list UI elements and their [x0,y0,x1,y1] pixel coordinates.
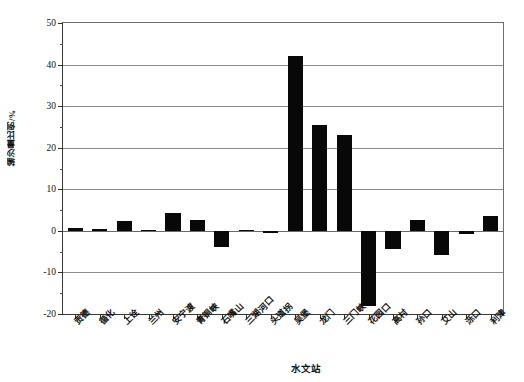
bar [214,231,229,247]
y-axis-minor-tick [60,169,63,170]
chart-figure: 输沙量比例/% 50403020100-10-20 水文站 贡德循化上诠兰州安宁… [0,0,524,382]
y-axis-tick [58,314,63,315]
y-axis-minor-tick [60,210,63,211]
y-axis-minor-tick [60,44,63,45]
y-axis-tick [58,65,63,66]
bar [239,230,254,231]
bar [68,228,83,230]
bar [434,231,449,255]
bar [263,231,278,233]
y-axis-minor-tick [60,127,63,128]
plot-area: 50403020100-10-20 [62,22,504,315]
y-axis-tick-label: 20 [26,143,56,153]
bar [312,125,327,231]
gridline [63,106,503,107]
y-axis-tick-label: 40 [26,60,56,70]
bar [190,220,205,230]
y-axis-tick-label: 0 [26,226,56,236]
y-axis-tick [58,189,63,190]
bar [117,221,132,231]
y-axis-title: 输沙量比例/% [8,110,24,166]
x-axis-title-text: 水文站 [291,364,321,374]
y-axis-minor-tick [60,293,63,294]
bar [92,229,107,231]
bar [165,213,180,231]
y-axis-tick [58,106,63,107]
bar [337,135,352,231]
y-axis-tick [58,148,63,149]
y-axis-tick-label: -20 [26,309,56,319]
gridline [63,65,503,66]
gridline [63,189,503,190]
bar [483,216,498,231]
x-axis-title: 水文站 [0,361,524,375]
y-axis-tick-label: 10 [26,184,56,194]
gridline [63,148,503,149]
bar [385,231,400,249]
y-axis-tick-label: 30 [26,101,56,111]
bar [288,56,303,231]
y-axis-tick [58,272,63,273]
gridline [63,272,503,273]
y-axis-tick [58,23,63,24]
y-axis-tick [58,231,63,232]
y-axis-tick-label: -10 [26,267,56,277]
bar [361,231,376,306]
y-axis-tick-label: 50 [26,18,56,28]
y-axis-minor-tick [60,85,63,86]
y-axis-minor-tick [60,252,63,253]
bar [410,220,425,231]
bar [459,231,474,234]
bar [141,230,156,231]
